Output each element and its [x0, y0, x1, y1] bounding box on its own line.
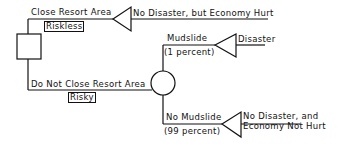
- outcome-label-no-mudslide-line2: Economy Not Hurt: [243, 121, 326, 131]
- branch-label-close: Close Resort Area: [31, 7, 111, 17]
- branch-probability-mudslide: (1 percent): [164, 47, 215, 57]
- branch-label-no-mudslide: No Mudslide: [166, 112, 221, 122]
- branch-label-mudslide: Mudslide: [167, 33, 207, 43]
- outcome-node-close: [113, 7, 131, 31]
- outcome-label-close: No Disaster, but Economy Hurt: [133, 8, 274, 18]
- branch-label-not-close: Do Not Close Resort Area: [31, 79, 146, 89]
- branch-tag-risky: Risky: [68, 92, 96, 103]
- decision-node: [17, 34, 41, 59]
- chance-node: [151, 71, 175, 95]
- outcome-label-mudslide: Disaster: [238, 34, 275, 44]
- branch-probability-no-mudslide: (99 percent): [164, 126, 220, 136]
- outcome-node-no-mudslide: [222, 112, 241, 137]
- outcome-label-no-mudslide-line1: No Disaster, and: [243, 111, 319, 121]
- outcome-node-mudslide: [215, 34, 236, 57]
- branch-tag-riskless: Riskless: [44, 21, 84, 32]
